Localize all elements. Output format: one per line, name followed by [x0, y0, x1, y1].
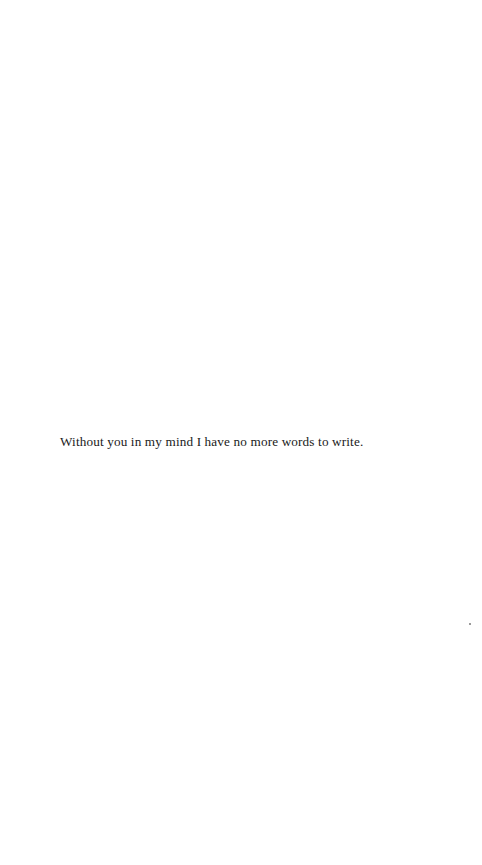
body-text-line: Without you in my mind I have no more wo… — [60, 434, 363, 450]
document-page: Without you in my mind I have no more wo… — [0, 0, 482, 865]
dot-mark — [469, 623, 471, 625]
